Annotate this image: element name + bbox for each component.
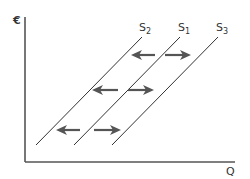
s2-label: S2 bbox=[139, 22, 151, 36]
supply-curve-s3 bbox=[112, 37, 218, 145]
s3-label: S3 bbox=[216, 22, 228, 36]
s3-label-main: S bbox=[216, 21, 223, 34]
supply-shift-diagram bbox=[0, 0, 250, 179]
arrow-right-icon bbox=[165, 50, 191, 60]
s1-label: S1 bbox=[178, 22, 190, 36]
supply-curve-s2 bbox=[36, 37, 142, 145]
x-axis-label: Q bbox=[226, 166, 235, 177]
s3-label-sub: 3 bbox=[223, 27, 228, 36]
s2-label-main: S bbox=[139, 21, 146, 34]
arrow-left-icon bbox=[92, 85, 118, 95]
s1-label-sub: 1 bbox=[185, 27, 190, 36]
y-axis-label: € bbox=[13, 15, 21, 26]
supply-curve-s1 bbox=[74, 37, 180, 145]
arrow-left-icon bbox=[131, 50, 155, 60]
arrow-left-icon bbox=[56, 125, 80, 135]
arrow-right-icon bbox=[94, 125, 121, 135]
s1-label-main: S bbox=[178, 21, 185, 34]
s2-label-sub: 2 bbox=[146, 27, 151, 36]
